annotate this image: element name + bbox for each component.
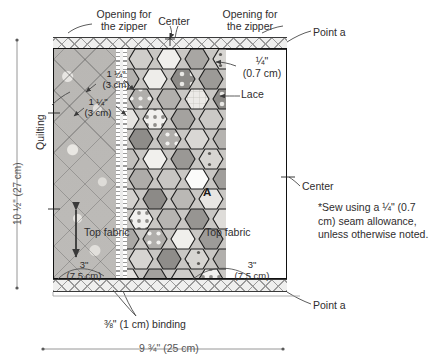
label-top-fabric-left: Top fabric (84, 226, 130, 238)
label-lace-seam-allowance: ¼" (0.7 cm) (236, 55, 288, 80)
label-binding: ⅜" (1 cm) binding (104, 318, 186, 330)
label-quilt-spacing-2: 1 ¼" (3 cm) (74, 96, 122, 118)
label-width-right-3in: 3" (7.5 cm) (224, 259, 280, 281)
label-center-top: Center (146, 15, 202, 27)
label-point-a-bottom: Point a (313, 299, 346, 311)
annotation-overlay (0, 0, 439, 363)
label-top-fabric-right: Top fabric (205, 226, 251, 238)
label-opening-right: Opening for the zipper (204, 8, 296, 33)
label-point-a-top: Point a (313, 26, 346, 38)
diagram-canvas: A (0, 0, 439, 363)
dimension-height: 10 ½" (27 cm) (12, 163, 23, 225)
label-center-right: Center (302, 180, 334, 192)
dimension-width: 9 ¾" (25 cm) (139, 342, 199, 354)
label-quilt-spacing-1: 1 ¼" (3 cm) (92, 68, 140, 90)
label-width-left-3in: 3" (7.5 cm) (56, 259, 112, 281)
label-lace: Lace (241, 88, 264, 100)
label-quilting: Quilting (34, 114, 46, 150)
note-seam-allowance: *Sew using a ¼" (0.7 cm) seam allowance,… (318, 201, 436, 242)
